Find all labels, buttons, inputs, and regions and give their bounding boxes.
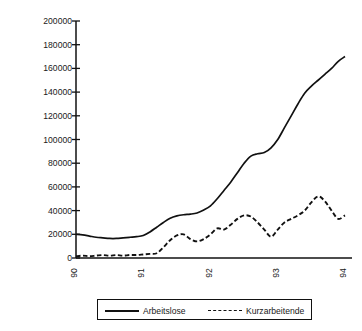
x-axis-tick-label: 90 [69,262,83,284]
x-axis-tick-label: 94 [338,262,352,284]
chart-figure: Arbeitslose und Kurzarbeitende 200000180… [0,0,362,331]
x-axis-tick-label-text: 92 [204,262,214,284]
x-axis-tick-label: 93 [271,262,285,284]
legend-label: Arbeitslose [143,306,186,316]
chart-legend: Arbeitslose Kurzarbeitende [97,299,312,320]
y-axis-tick-label-text: 200000 [26,16,72,26]
y-axis-tick-label: 60000 [24,182,72,192]
legend-entry-kurzarbeitende: Kurzarbeitende [208,303,304,318]
data-series-layer [76,57,345,257]
legend-line-icon-dashed [208,307,242,315]
y-axis-tick-label: 180000 [24,40,72,50]
y-axis-tick-label-text: 100000 [26,135,72,145]
y-axis-tick-label-text: 180000 [26,40,72,50]
y-axis-tick-label-text: 120000 [26,111,72,121]
y-axis-tick-label-text: 40000 [26,206,72,216]
legend-entry-arbeitslose: Arbeitslose [105,303,186,318]
y-axis-tick-label: 120000 [24,111,72,121]
y-axis-tick-label: 0 [24,253,72,263]
y-axis-tick-label: 20000 [24,229,72,239]
y-axis-tick-label: 80000 [24,158,72,168]
x-axis-tick-label: 92 [204,262,218,284]
y-axis-tick-label: 200000 [24,16,72,26]
y-axis-tick-label: 140000 [24,87,72,97]
legend-line-icon-solid [105,307,139,315]
y-axis-tick-label-text: 160000 [26,63,72,73]
x-axis-tick-label: 91 [136,262,150,284]
y-axis-tick-label-text: 60000 [26,182,72,192]
legend-label: Kurzarbeitende [246,306,304,316]
x-axis-tick-label-text: 91 [136,262,146,284]
x-axis-tick-label-text: 90 [69,262,79,284]
x-axis-tick-label-text: 93 [271,262,281,284]
y-axis-tick-label-text: 20000 [26,229,72,239]
y-axis-tick-label: 100000 [24,135,72,145]
y-axis-tick-label: 160000 [24,63,72,73]
y-axis-tick-label-text: 80000 [26,158,72,168]
series-line-arbeitslose [76,57,345,239]
y-axis-tick-label-text: 140000 [26,87,72,97]
x-axis-tick-label-text: 94 [338,262,348,284]
axes [72,21,352,258]
y-axis-tick-label-text: 0 [26,253,72,263]
y-axis-tick-label: 40000 [24,206,72,216]
